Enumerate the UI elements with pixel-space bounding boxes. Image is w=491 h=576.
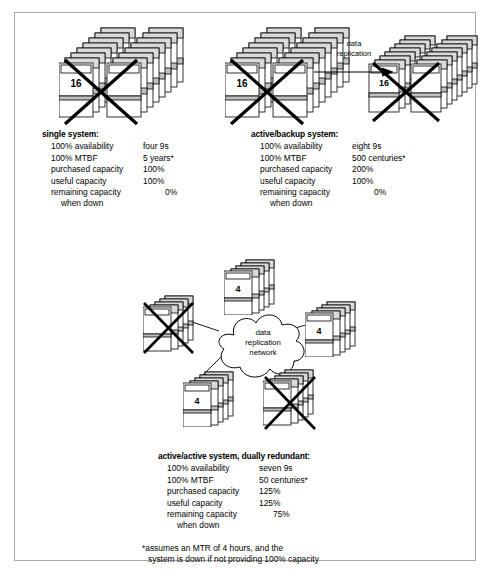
- cluster-node-top: 4: [224, 259, 294, 315]
- svg-text:16: 16: [70, 78, 82, 89]
- spec-label: 100% MTBF: [260, 153, 352, 164]
- cloud-label-line2: replication: [228, 338, 298, 348]
- svg-text:4: 4: [194, 396, 199, 406]
- spec-label: purchased capacity: [167, 486, 259, 497]
- spec-row: purchased capacity 125%: [158, 486, 310, 497]
- single-system-spec: single system: 100% availability four 9s…: [42, 129, 177, 210]
- spec-continuation: when down: [42, 198, 177, 209]
- diagram-frame: 16: [14, 12, 476, 561]
- spec-row: 100% availability four 9s: [42, 141, 177, 152]
- footnote-line2: system is down if not providing 100% cap…: [142, 554, 319, 565]
- spec-row: 100% availability seven 9s: [158, 463, 310, 474]
- spec-continuation: when down: [158, 520, 310, 531]
- spec-row: 100% MTBF 500 centuries*: [251, 153, 406, 164]
- spec-value: four 9s: [143, 141, 169, 152]
- cloud-label: data replication network: [228, 328, 298, 359]
- spec-value: 100%: [143, 164, 164, 175]
- active-active-system-spec: active/active system, dually redundant: …: [158, 451, 310, 532]
- spec-label: remaining capacity: [167, 509, 259, 520]
- spec-row: purchased capacity 200%: [251, 164, 406, 175]
- spec-label: purchased capacity: [51, 164, 143, 175]
- spec-row: purchased capacity 100%: [42, 164, 177, 175]
- spec-row: useful capacity 100%: [42, 176, 177, 187]
- spec-value: seven 9s: [259, 463, 293, 474]
- spec-value: 0%: [352, 187, 386, 198]
- svg-text:16: 16: [236, 78, 248, 89]
- spec-row: useful capacity 100%: [251, 176, 406, 187]
- spec-label: 100% MTBF: [167, 475, 259, 486]
- spec-label: useful capacity: [260, 176, 352, 187]
- server-stack-single-system: 16: [59, 26, 189, 126]
- active-backup-system-title: active/backup system:: [251, 129, 406, 140]
- spec-row: remaining capacity 75%: [158, 509, 310, 520]
- active-active-system-title: active/active system, dually redundant:: [158, 451, 310, 462]
- spec-value: 200%: [352, 164, 373, 175]
- spec-label: 100% availability: [51, 141, 143, 152]
- spec-row: remaining capacity 0%: [251, 187, 406, 198]
- spec-row: useful capacity 125%: [158, 498, 310, 509]
- spec-value: 500 centuries*: [352, 153, 406, 164]
- diagram-page: 16: [0, 0, 491, 576]
- spec-value: 100%: [352, 176, 373, 187]
- cloud-label-line1: data: [228, 328, 298, 338]
- spec-continuation: when down: [251, 198, 406, 209]
- spec-value: 75%: [259, 509, 290, 520]
- spec-label: remaining capacity: [51, 187, 143, 198]
- footnote: *assumes an MTR of 4 hours, and the syst…: [142, 543, 319, 566]
- spec-label: purchased capacity: [260, 164, 352, 175]
- replication-label-line1: data: [318, 39, 390, 49]
- spec-label: 100% availability: [260, 141, 352, 152]
- spec-label: remaining capacity: [260, 187, 352, 198]
- spec-row: 100% MTBF 5 years*: [42, 153, 177, 164]
- svg-text:4: 4: [235, 284, 240, 294]
- svg-text:4: 4: [316, 326, 321, 336]
- spec-value: 125%: [259, 498, 280, 509]
- active-backup-system-spec: active/backup system: 100% availability …: [251, 129, 406, 210]
- data-replication-arrow-label: data replication: [318, 39, 390, 58]
- spec-value: eight 9s: [352, 141, 381, 152]
- spec-label: 100% MTBF: [51, 153, 143, 164]
- spec-value: 5 years*: [143, 153, 174, 164]
- spec-label: useful capacity: [167, 498, 259, 509]
- spec-value: 100%: [143, 176, 164, 187]
- replication-label-line2: replication: [318, 49, 390, 59]
- spec-row: remaining capacity 0%: [42, 187, 177, 198]
- cluster-node-left-failed: [143, 295, 213, 357]
- cluster-node-right: 4: [305, 301, 375, 357]
- cluster-node-bottom-right-failed: [263, 369, 337, 433]
- single-system-title: single system:: [42, 129, 177, 140]
- spec-row: 100% availability eight 9s: [251, 141, 406, 152]
- replication-arrow-glyph: [314, 63, 396, 79]
- footnote-line1: *assumes an MTR of 4 hours, and the: [142, 543, 319, 554]
- spec-row: 100% MTBF 50 centuries*: [158, 475, 310, 486]
- spec-label: 100% availability: [167, 463, 259, 474]
- cloud-label-line3: network: [228, 348, 298, 358]
- spec-value: 0%: [143, 187, 177, 198]
- spec-value: 50 centuries*: [259, 475, 308, 486]
- svg-text:16: 16: [379, 78, 389, 88]
- cluster-node-bottom-left: 4: [183, 371, 253, 427]
- spec-label: useful capacity: [51, 176, 143, 187]
- spec-value: 125%: [259, 486, 280, 497]
